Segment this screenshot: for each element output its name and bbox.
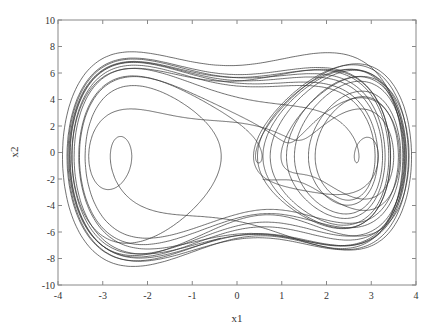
x-axis-label: x1 — [232, 312, 243, 324]
y-tick-label: 2 — [50, 121, 55, 132]
y-tick-label: 10 — [45, 15, 55, 26]
x-tick-label: -4 — [54, 290, 62, 301]
y-tick-label: -6 — [47, 227, 55, 238]
y-tick-label: -8 — [47, 253, 55, 264]
y-tick-label: -2 — [47, 174, 55, 185]
x-tick-label: -3 — [99, 290, 107, 301]
x-tick-label: 3 — [369, 290, 374, 301]
y-axis-label: x2 — [8, 147, 20, 158]
y-tick-label: -4 — [47, 200, 55, 211]
x-tick-label: -1 — [188, 290, 196, 301]
x-tick-label: 1 — [279, 290, 284, 301]
x-tick-label: 0 — [235, 290, 240, 301]
y-tick-label: 8 — [50, 41, 55, 52]
y-tick-label: 4 — [50, 94, 55, 105]
x-tick-label: 4 — [414, 290, 419, 301]
phase-portrait-chart: -4-3-2-101234 -10-8-6-4-20246810 x1 x2 — [0, 0, 432, 335]
y-tick-label: 0 — [50, 147, 55, 158]
x-tick-label: -2 — [143, 290, 151, 301]
y-tick-label: 6 — [50, 68, 55, 79]
x-tick-label: 2 — [324, 290, 329, 301]
y-tick-label: -10 — [42, 280, 55, 291]
